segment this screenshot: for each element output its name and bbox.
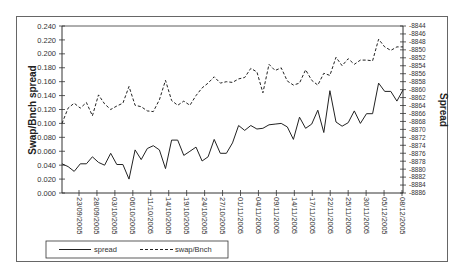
- x-tick-label: 11/10/2005: [146, 197, 155, 234]
- right-tick-label: -8886: [409, 189, 426, 196]
- x-tick-label: 09/11/2005: [272, 197, 281, 234]
- right-tick-label: -8860: [409, 86, 426, 93]
- x-tick-label: 22/11/2005: [326, 197, 335, 234]
- left-tick-label: 0.040: [37, 161, 56, 170]
- x-tick-label: 14/10/2005: [164, 197, 173, 235]
- left-y-axis: 0.2400.2200.2000.1800.1600.1400.1200.100…: [37, 22, 65, 198]
- right-tick-label: -8882: [409, 173, 426, 180]
- right-tick-label: -8854: [409, 62, 426, 69]
- right-tick-label: -8852: [409, 54, 426, 61]
- x-tick-label: 01/11/2005: [236, 197, 245, 234]
- line-chart: 0.2400.2200.2000.1800.1600.1400.1200.100…: [0, 0, 465, 277]
- legend-label-swap-bnch: swap/Bnch: [175, 245, 212, 254]
- swap-bnch-line: [62, 39, 403, 123]
- right-tick-label: -8858: [409, 78, 426, 85]
- x-tick-label: 25/11/2005: [344, 197, 353, 234]
- left-tick-label: 0.220: [37, 36, 56, 45]
- right-tick-label: -8862: [409, 94, 426, 101]
- right-tick-label: -8846: [409, 30, 426, 37]
- right-tick-label: -8864: [409, 102, 426, 109]
- right-tick-label: -8872: [409, 134, 426, 141]
- x-tick-label: 08/12/2005: [398, 197, 407, 235]
- left-tick-label: 0.080: [37, 133, 56, 142]
- x-tick-label: 06/10/2005: [128, 197, 137, 235]
- x-tick-label: 17/11/2005: [308, 197, 317, 234]
- x-tick-label: 28/09/2005: [92, 197, 101, 235]
- right-tick-label: -8856: [409, 70, 426, 77]
- left-tick-label: 0.160: [37, 77, 56, 86]
- left-tick-label: 0.180: [37, 63, 56, 72]
- right-tick-label: -8866: [409, 110, 426, 117]
- spread-line: [62, 83, 403, 179]
- x-tick-label: 27/10/2005: [218, 197, 227, 235]
- right-tick-label: -8868: [409, 118, 426, 125]
- right-tick-label: -8844: [409, 22, 426, 29]
- left-tick-label: 0.200: [37, 49, 56, 58]
- right-tick-label: -8874: [409, 142, 426, 149]
- right-axis-title: Spread: [438, 93, 449, 127]
- legend-label-spread: spread: [94, 245, 117, 254]
- x-tick-label: 24/10/2005: [200, 197, 209, 235]
- left-tick-label: 0.060: [37, 147, 56, 156]
- x-tick-label: 05/12/2005: [380, 197, 389, 235]
- left-tick-label: 0.000: [37, 189, 56, 198]
- plot-area: [62, 26, 403, 193]
- right-y-axis: -8844-8846-8848-8850-8852-8854-8856-8858…: [400, 22, 426, 196]
- x-tick-label: 19/10/2005: [182, 197, 191, 235]
- right-tick-label: -8876: [409, 150, 426, 157]
- x-tick-label: 23/09/2005: [75, 197, 84, 235]
- left-tick-label: 0.120: [37, 105, 56, 114]
- x-tick-label: 30/11/2005: [362, 197, 371, 234]
- x-tick-label: 03/10/2005: [110, 197, 119, 235]
- right-tick-label: -8880: [409, 166, 426, 173]
- right-tick-label: -8884: [409, 181, 426, 188]
- right-tick-label: -8848: [409, 38, 426, 45]
- right-tick-label: -8870: [409, 126, 426, 133]
- legend: spread swap/Bnch: [46, 241, 228, 258]
- right-tick-label: -8878: [409, 158, 426, 165]
- left-tick-label: 0.100: [37, 119, 56, 128]
- x-axis: 23/09/200528/09/200503/10/200506/10/2005…: [75, 190, 407, 235]
- left-axis-title: Swap/Bnch spread: [27, 65, 38, 154]
- left-tick-label: 0.020: [37, 175, 56, 184]
- x-tick-label: 14/11/2005: [290, 197, 299, 234]
- right-tick-label: -8850: [409, 46, 426, 53]
- left-tick-label: 0.140: [37, 91, 56, 100]
- left-tick-label: 0.240: [37, 22, 56, 31]
- x-tick-label: 04/11/2005: [254, 197, 263, 234]
- series-lines: [62, 39, 403, 179]
